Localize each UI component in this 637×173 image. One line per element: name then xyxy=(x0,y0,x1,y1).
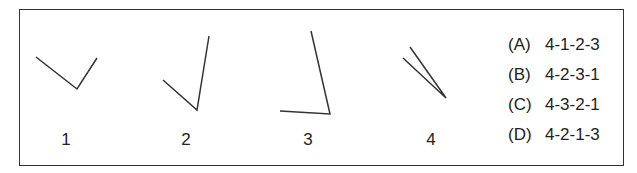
option-a[interactable]: (A)4-1-2-3 xyxy=(508,30,600,60)
option-c[interactable]: (C)4-3-2-1 xyxy=(508,90,600,120)
figure-2-label: 2 xyxy=(176,130,196,150)
option-letter: (C) xyxy=(508,90,545,120)
answer-options: (A)4-1-2-3 (B)4-2-3-1 (C)4-3-2-1 (D)4-2-… xyxy=(508,30,600,150)
figure-1-label: 1 xyxy=(56,130,76,150)
figure-3-label: 3 xyxy=(298,130,318,150)
option-b[interactable]: (B)4-2-3-1 xyxy=(508,60,600,90)
figure-4-label: 4 xyxy=(421,130,441,150)
option-letter: (B) xyxy=(508,60,545,90)
figure-1-angle xyxy=(36,57,97,89)
figure-2-angle xyxy=(163,36,209,110)
figure-3-angle xyxy=(280,31,330,114)
option-letter: (A) xyxy=(508,30,545,60)
figure-4-angle xyxy=(403,47,446,98)
option-letter: (D) xyxy=(508,120,545,150)
option-d[interactable]: (D)4-2-1-3 xyxy=(508,120,600,150)
option-sequence: 4-2-3-1 xyxy=(545,65,600,84)
option-sequence: 4-2-1-3 xyxy=(545,125,600,144)
option-sequence: 4-3-2-1 xyxy=(545,95,600,114)
option-sequence: 4-1-2-3 xyxy=(545,35,600,54)
